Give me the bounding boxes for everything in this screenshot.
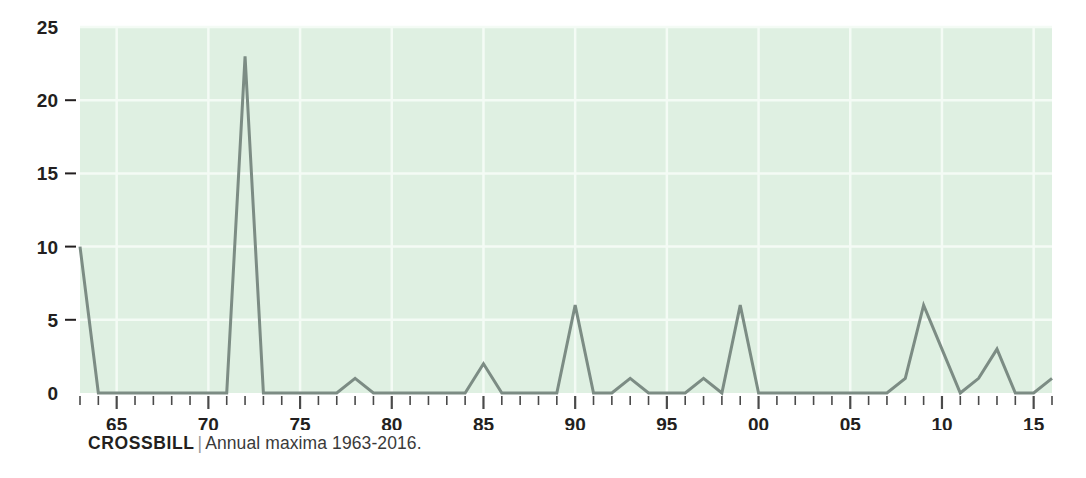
x-axis-tick-label: 65 (106, 414, 128, 430)
x-axis-tick-label: 10 (931, 414, 952, 430)
x-axis-tick-label: 75 (290, 414, 312, 430)
y-axis-tick-label: 5 (47, 310, 58, 331)
chart-caption: CROSSBILL|Annual maxima 1963-2016. (88, 432, 422, 454)
x-axis-tick-label: 85 (473, 414, 495, 430)
crossbill-line-chart: 05101520256570758085909500051015 (0, 0, 1086, 430)
y-axis-tick-label: 20 (37, 90, 58, 111)
caption-separator: | (195, 433, 206, 453)
x-axis-tick-label: 95 (656, 414, 678, 430)
y-axis-tick-label: 25 (37, 17, 59, 38)
x-axis-tick-label: 80 (381, 414, 402, 430)
x-axis-tick-label: 70 (198, 414, 219, 430)
y-axis-tick-label: 0 (47, 383, 58, 404)
y-axis-tick-label: 15 (37, 163, 59, 184)
x-axis-tick-label: 15 (1023, 414, 1045, 430)
caption-subtitle: Annual maxima 1963-2016. (205, 433, 421, 453)
x-axis-tick-label: 05 (840, 414, 862, 430)
y-axis-tick-label: 10 (37, 237, 58, 258)
plot-background (80, 27, 1052, 393)
chart-figure: 05101520256570758085909500051015 CROSSBI… (0, 0, 1086, 478)
x-axis-tick-label: 90 (565, 414, 586, 430)
x-axis-tick-label: 00 (748, 414, 769, 430)
caption-series-name: CROSSBILL (88, 433, 195, 453)
